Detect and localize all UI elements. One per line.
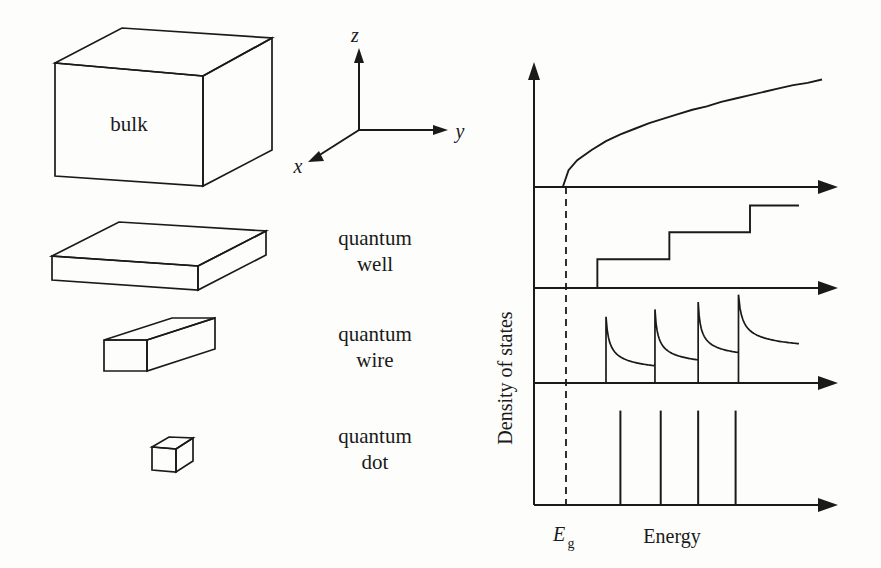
dos-vertical-axis-arrowhead [528, 62, 540, 80]
label-quantum-well-line1: quantum [338, 226, 412, 250]
bulk-side-face [203, 38, 272, 186]
axis-y-label: y [454, 120, 465, 143]
dot-front-face [152, 447, 176, 472]
structure-quantum-wire [104, 318, 215, 371]
well-front-face [52, 256, 198, 290]
curve-quantum-dot-dos [620, 411, 735, 505]
wire-front-face [104, 340, 147, 371]
baseline-bulk-arrowhead [818, 180, 838, 194]
curve-quantum-well-dos [597, 205, 799, 288]
label-quantum-dot-line1: quantum [338, 424, 412, 448]
dot-side-face [176, 438, 193, 472]
baseline-quantum-dot-arrowhead [818, 498, 838, 512]
wire-side-face [147, 318, 215, 371]
structure-quantum-dot [152, 437, 193, 472]
dos-y-axis-label: Density of states [494, 311, 517, 445]
baseline-quantum-wire-arrowhead [818, 376, 838, 390]
quantum-confinement-figure: bulk z y x [0, 0, 881, 568]
bulk-inside-label: bulk [110, 112, 148, 136]
curve-quantum-wire-dos [606, 295, 799, 383]
baseline-quantum-well-arrowhead [818, 281, 838, 295]
label-quantum-well-line2: well [357, 252, 393, 276]
structure-quantum-well [52, 222, 266, 290]
curve-bulk-dos [563, 79, 822, 187]
band-gap-label-subscript: g [568, 536, 575, 551]
band-gap-label: E [552, 523, 565, 545]
dos-plot-group: Density of states Energy E g [494, 62, 838, 551]
bulk-top-face [55, 28, 272, 76]
label-quantum-dot-line2: dot [362, 450, 389, 474]
structure-bulk: bulk [55, 28, 272, 186]
dos-baselines [534, 180, 838, 512]
structure-labels: quantum well quantum wire quantum dot [338, 226, 412, 474]
axis-y-arrowhead [433, 125, 448, 135]
well-side-face [198, 231, 266, 290]
axis-z-arrowhead [354, 48, 364, 63]
well-top-face [52, 222, 266, 266]
axis-x-line [318, 130, 359, 156]
label-quantum-wire-line1: quantum [338, 322, 412, 346]
figure-canvas: bulk z y x [0, 0, 881, 568]
axis-z-label: z [350, 24, 359, 46]
dos-x-axis-label: Energy [643, 525, 700, 548]
label-quantum-wire-line2: wire [356, 348, 393, 372]
coordinate-axes-triad: z y x [293, 24, 465, 177]
axis-x-label: x [293, 155, 303, 177]
